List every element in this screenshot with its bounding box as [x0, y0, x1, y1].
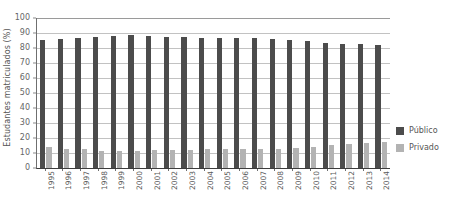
- bar-group: [111, 18, 122, 168]
- y-tick-label: 10: [20, 149, 30, 157]
- bar: [117, 151, 122, 168]
- bar: [217, 38, 222, 169]
- bar-group: [375, 18, 386, 168]
- bar: [364, 143, 369, 169]
- x-tick-mark: [292, 169, 293, 171]
- bar-group: [58, 18, 69, 168]
- y-tick-label: 0: [25, 164, 30, 172]
- y-tick-label: 80: [20, 44, 30, 52]
- y-tick-label: 40: [20, 104, 30, 112]
- x-tick-label: 2013: [366, 171, 374, 190]
- bar-group: [340, 18, 351, 168]
- bar: [205, 149, 210, 168]
- bar: [234, 38, 239, 169]
- bar-group: [305, 18, 316, 168]
- bar: [64, 149, 69, 169]
- bar-group: [358, 18, 369, 168]
- bar: [305, 41, 310, 169]
- bar: [82, 149, 87, 168]
- bar: [375, 45, 380, 168]
- bar: [128, 35, 133, 168]
- bar-group: [40, 18, 51, 168]
- x-tick-label: 2000: [136, 171, 144, 190]
- bar-chart: Estudantes matriculados (%) 010203040506…: [0, 0, 467, 198]
- bar: [252, 38, 257, 168]
- x-tick-label: 2008: [277, 171, 285, 190]
- y-tick-label: 90: [20, 29, 30, 37]
- bar: [135, 151, 140, 168]
- x-tick-label: 2002: [171, 171, 179, 190]
- x-tick-mark: [310, 169, 311, 171]
- x-tick-label: 1997: [83, 171, 91, 190]
- bar-group: [234, 18, 245, 168]
- bar-group: [75, 18, 86, 168]
- bar: [164, 37, 169, 168]
- bar-group: [252, 18, 263, 168]
- bar: [223, 149, 228, 168]
- bar: [58, 39, 63, 168]
- bar: [111, 36, 116, 168]
- bar-group: [199, 18, 210, 168]
- legend-item[interactable]: Privado: [396, 143, 464, 153]
- x-tick-mark: [80, 169, 81, 171]
- bar: [181, 37, 186, 168]
- x-tick-label: 2005: [224, 171, 232, 190]
- bar: [170, 150, 175, 168]
- bar: [340, 44, 345, 169]
- y-axis-title-text: Estudantes matriculados (%): [3, 28, 12, 146]
- bar: [152, 150, 157, 168]
- legend-item[interactable]: Público: [396, 126, 464, 136]
- bar-group: [146, 18, 157, 168]
- plot-area: [36, 18, 390, 169]
- x-tick-mark: [257, 169, 258, 171]
- x-tick-label: 2003: [189, 171, 197, 190]
- y-tick-label: 100: [15, 14, 30, 22]
- y-tick-label: 50: [20, 89, 30, 97]
- y-tick-label: 20: [20, 134, 30, 142]
- bar: [99, 151, 104, 168]
- bar: [46, 147, 51, 168]
- x-tick-mark: [45, 169, 46, 171]
- y-axis-title: Estudantes matriculados (%): [0, 0, 14, 175]
- x-axis-labels: 1995199619971998199920002001200220032004…: [36, 169, 389, 198]
- bar-group: [181, 18, 192, 168]
- x-tick-label: 2006: [242, 171, 250, 190]
- y-axis-ticks: 0102030405060708090100: [13, 18, 33, 168]
- bar-group: [270, 18, 281, 168]
- x-tick-label: 1995: [48, 171, 56, 190]
- x-tick-label: 1998: [101, 171, 109, 190]
- x-tick-label: 2014: [383, 171, 391, 190]
- x-tick-label: 1996: [65, 171, 73, 190]
- x-tick-label: 2007: [260, 171, 268, 190]
- bar: [40, 40, 45, 168]
- x-tick-label: 2010: [313, 171, 321, 190]
- bar: [188, 150, 193, 168]
- bar: [240, 149, 245, 168]
- bar: [287, 40, 292, 168]
- bar: [199, 38, 204, 169]
- bar-group: [93, 18, 104, 168]
- x-tick-mark: [133, 169, 134, 171]
- bar: [270, 39, 275, 168]
- bar: [276, 149, 281, 169]
- bar: [358, 44, 363, 168]
- bar: [323, 43, 328, 168]
- bar: [75, 38, 80, 168]
- bar: [93, 37, 98, 168]
- bar: [258, 149, 263, 168]
- bar: [346, 144, 351, 168]
- x-tick-label: 1999: [118, 171, 126, 190]
- x-tick-label: 2004: [207, 171, 215, 190]
- x-tick-label: 2009: [295, 171, 303, 190]
- x-tick-mark: [363, 169, 364, 171]
- y-tick-label: 30: [20, 119, 30, 127]
- bar-group: [217, 18, 228, 168]
- legend-label: Público: [409, 127, 438, 135]
- x-tick-mark: [151, 169, 152, 171]
- x-tick-mark: [239, 169, 240, 171]
- y-tick-label: 70: [20, 59, 30, 67]
- x-tick-mark: [204, 169, 205, 171]
- bar: [293, 148, 298, 168]
- x-tick-label: 2012: [348, 171, 356, 190]
- bar-group: [323, 18, 334, 168]
